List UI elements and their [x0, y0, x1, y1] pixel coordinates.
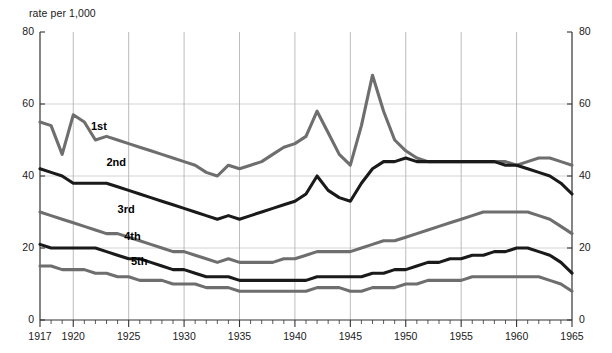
chart-container: rate per 1,000 0204060800204060801917192… [0, 0, 612, 353]
x-axis-tick-label: 1935 [220, 330, 260, 342]
x-axis-tick-label: 1925 [109, 330, 149, 342]
y-axis-tick-label-right: 0 [579, 313, 603, 325]
x-axis-tick-label: 1920 [53, 330, 93, 342]
x-axis-tick-label: 1960 [497, 330, 537, 342]
y-axis-tick-label-left: 20 [12, 241, 34, 253]
y-axis-tick-label-right: 60 [579, 97, 603, 109]
line-chart-plot [0, 0, 612, 353]
x-axis-tick-label: 1945 [330, 330, 370, 342]
y-axis-tick-label-right: 40 [579, 169, 603, 181]
series-label-1st: 1st [91, 120, 107, 132]
y-axis-tick-label-right: 80 [579, 25, 603, 37]
x-axis-tick-label: 1965 [552, 330, 592, 342]
y-axis-tick-label-left: 60 [12, 97, 34, 109]
y-axis-tick-label-left: 0 [12, 313, 34, 325]
series-label-4th: 4th [124, 230, 141, 242]
x-axis-tick-label: 1955 [441, 330, 481, 342]
series-label-5th: 5th [131, 255, 148, 267]
x-axis-tick-label: 1950 [386, 330, 426, 342]
x-axis-tick-label: 1930 [164, 330, 204, 342]
y-axis-tick-label-left: 40 [12, 169, 34, 181]
series-line-4th [40, 244, 572, 280]
series-label-3rd: 3rd [118, 203, 135, 215]
y-axis-tick-label-left: 80 [12, 25, 34, 37]
y-axis-tick-label-right: 20 [579, 241, 603, 253]
x-axis-tick-label: 1940 [275, 330, 315, 342]
series-label-2nd: 2nd [107, 156, 127, 168]
series-line-5th [40, 266, 572, 291]
